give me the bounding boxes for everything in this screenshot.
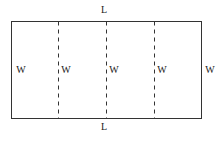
label-width-4: W — [156, 65, 168, 75]
label-width-5: W — [204, 65, 216, 75]
label-width-3: W — [108, 65, 120, 75]
label-length-top: L — [99, 5, 109, 15]
diagram-canvas: L L W W W W W — [0, 0, 224, 142]
label-length-bottom: L — [99, 122, 109, 132]
label-width-1: W — [15, 65, 27, 75]
label-width-2: W — [60, 65, 72, 75]
